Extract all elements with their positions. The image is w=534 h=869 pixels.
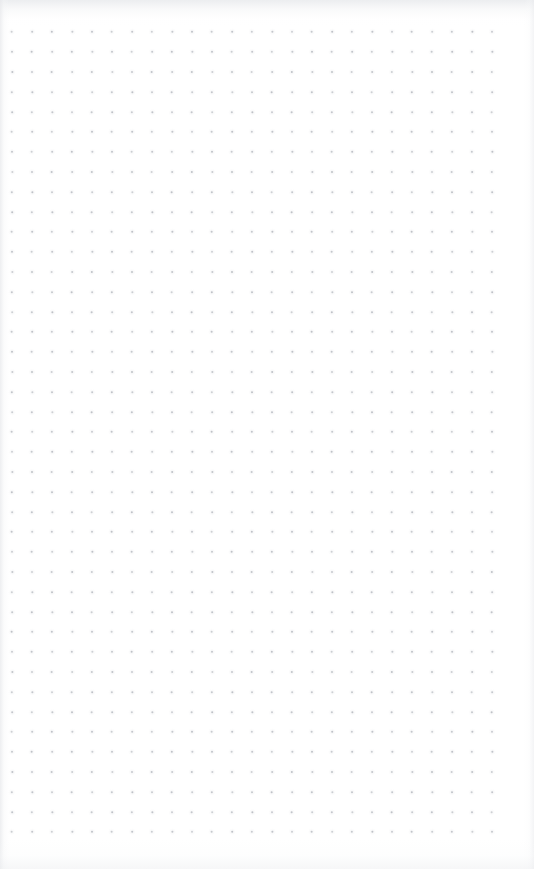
dot-grid-dot [131,51,133,53]
dot-grid-dot [411,91,413,93]
dot-grid-dot [471,671,473,673]
dot-grid-dot [171,51,173,53]
dot-grid-dot [411,651,413,653]
dot-grid-dot [451,491,453,493]
dot-grid-dot [251,191,253,193]
dot-grid-dot [331,831,333,833]
dot-grid-dot [311,91,313,93]
dot-grid-dot [131,591,133,593]
dot-grid-dot [311,631,313,633]
dot-grid-dot [371,591,373,593]
dot-grid-dot [291,671,293,673]
dot-grid-dot [431,191,433,193]
dot-grid-dot [131,471,133,473]
dot-grid-dot [371,631,373,633]
dot-grid-dot [491,511,493,513]
dot-grid-dot [171,31,173,33]
dot-grid-dot [11,171,13,173]
dot-grid-dot [451,171,453,173]
dot-grid-dot [171,571,173,573]
dot-grid-dot [71,691,73,693]
dot-grid-dot [391,371,393,373]
dot-grid-dot [331,371,333,373]
dot-grid-dot [211,591,213,593]
dot-grid-dot [91,171,93,173]
dot-grid-dot [211,171,213,173]
dot-grid-dot [91,111,93,113]
dot-grid-dot [111,331,113,333]
dot-grid-dot [471,691,473,693]
dot-grid-dot [231,791,233,793]
dot-grid-dot [111,151,113,153]
dot-grid-dot [151,651,153,653]
dot-grid-dot [431,611,433,613]
dot-grid-dot [471,511,473,513]
dot-grid-dot [11,351,13,353]
dot-grid-dot [331,211,333,213]
dot-grid-dot [351,811,353,813]
dot-grid-dot [231,551,233,553]
dot-grid-dot [11,751,13,753]
dot-grid-dot [231,131,233,133]
dot-grid-dot [271,611,273,613]
dot-grid-dot [111,71,113,73]
dot-grid-dot [411,131,413,133]
dot-grid-dot [11,651,13,653]
dot-grid-dot [211,331,213,333]
dot-grid-dot [191,611,193,613]
dot-grid-dot [171,711,173,713]
dot-grid-dot [311,351,313,353]
dot-grid-dot [391,751,393,753]
dot-grid-dot [271,451,273,453]
dot-grid-dot [71,431,73,433]
dot-grid-dot [491,731,493,733]
dot-grid-dot [291,691,293,693]
dot-grid-dot [71,531,73,533]
dot-grid-dot [251,831,253,833]
dot-grid-dot [431,591,433,593]
dot-grid-dot [251,91,253,93]
dot-grid-dot [411,471,413,473]
dot-grid-dot [171,311,173,313]
dot-grid-dot [451,651,453,653]
dot-grid-dot [351,251,353,253]
dot-grid-dot [51,551,53,553]
dot-grid-dot [31,411,33,413]
dot-grid-dot [291,271,293,273]
dot-grid-dot [291,191,293,193]
dot-grid-dot [391,651,393,653]
dot-grid-dot [171,71,173,73]
dot-grid-dot [311,251,313,253]
dot-grid-dot [91,551,93,553]
dot-grid-dot [331,351,333,353]
dot-grid-dot [351,71,353,73]
dot-grid-dot [91,211,93,213]
dot-grid-dot [191,51,193,53]
dot-grid-dot [331,631,333,633]
dot-grid-dot [371,511,373,513]
dot-grid-dot [151,751,153,753]
dot-grid-dot [451,591,453,593]
dot-grid-dot [131,371,133,373]
dot-grid-dot [231,631,233,633]
dot-grid-dot [431,211,433,213]
dot-grid-dot [471,291,473,293]
dot-grid-dot [451,431,453,433]
dot-grid-dot [211,491,213,493]
dot-grid-dot [291,831,293,833]
dot-grid-dot [91,391,93,393]
dot-grid-dot [31,151,33,153]
dot-grid-dot [491,571,493,573]
dot-grid-page [0,0,534,869]
dot-grid-dot [431,791,433,793]
dot-grid-dot [231,351,233,353]
dot-grid-dot [391,291,393,293]
dot-grid-dot [451,511,453,513]
dot-grid-dot [371,651,373,653]
dot-grid-dot [151,831,153,833]
dot-grid-dot [391,771,393,773]
dot-grid-dot [151,231,153,233]
dot-grid-dot [471,651,473,653]
dot-grid-dot [331,771,333,773]
dot-grid-dot [431,431,433,433]
